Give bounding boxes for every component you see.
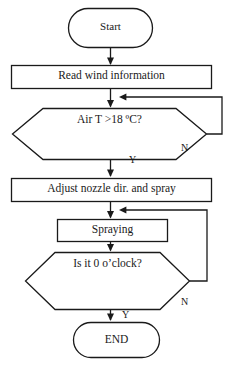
flowchart-diagram: Start Read wind information Air T >18 ºC… — [0, 0, 227, 369]
node-oclock-shape — [26, 253, 190, 310]
node-airt-shape — [13, 109, 207, 160]
node-start-shape — [69, 9, 153, 48]
node-spray-shape — [58, 220, 168, 242]
flowchart-canvas — [0, 0, 227, 369]
node-end-shape — [74, 323, 160, 358]
node-read-shape — [12, 66, 212, 89]
node-adjust-shape — [12, 179, 212, 202]
